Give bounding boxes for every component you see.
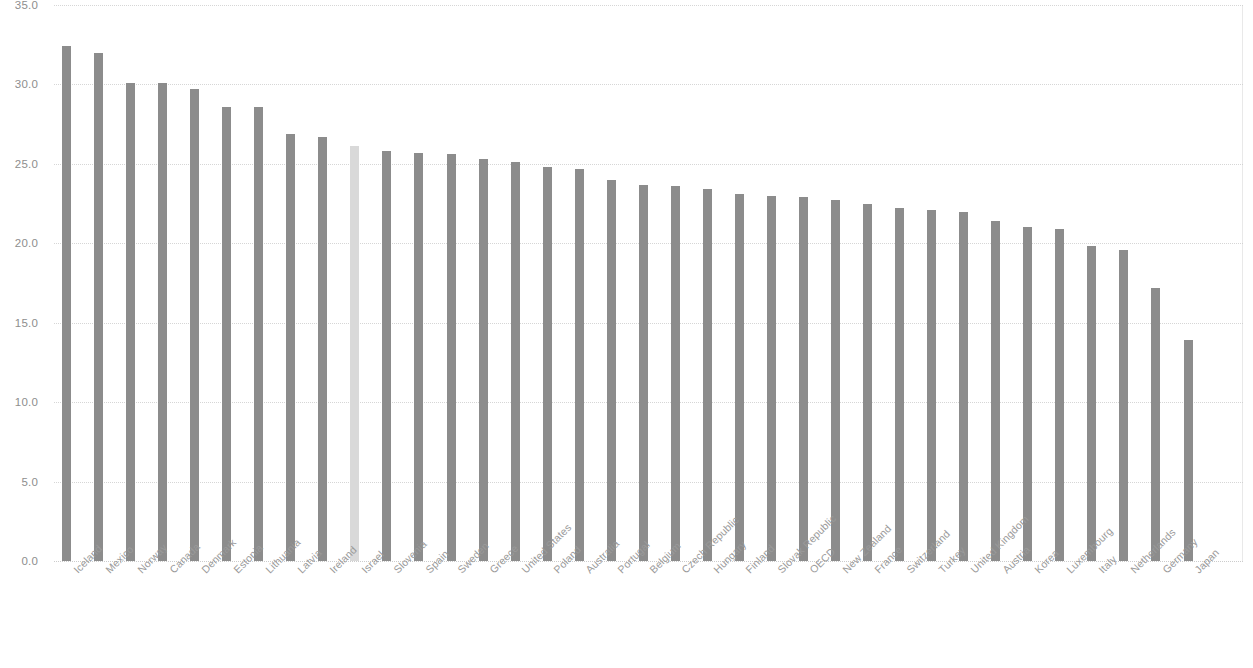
bar[interactable] xyxy=(158,83,167,561)
bar[interactable] xyxy=(799,197,808,561)
bar-chart: 35.030.025.020.015.010.05.00.0 IcelandMe… xyxy=(0,0,1253,668)
bar[interactable] xyxy=(286,134,295,561)
bar[interactable] xyxy=(959,212,968,561)
bar[interactable] xyxy=(767,196,776,561)
y-axis-tick-label: 30.0 xyxy=(0,78,38,90)
bar[interactable] xyxy=(318,137,327,561)
x-axis-category-labels: IcelandMexicoNorwayCanadaDenmarkEstoniaL… xyxy=(54,563,1243,668)
bar[interactable] xyxy=(350,146,359,561)
y-axis-tick-label: 0.0 xyxy=(0,555,38,567)
bar[interactable] xyxy=(831,200,840,561)
bar[interactable] xyxy=(479,159,488,561)
bar[interactable] xyxy=(447,154,456,561)
bar[interactable] xyxy=(895,208,904,561)
bar[interactable] xyxy=(254,107,263,561)
bar[interactable] xyxy=(543,167,552,561)
bar[interactable] xyxy=(863,204,872,561)
plot-area: 35.030.025.020.015.010.05.00.0 xyxy=(54,5,1243,561)
bar[interactable] xyxy=(414,153,423,561)
bar[interactable] xyxy=(991,221,1000,561)
bar[interactable] xyxy=(639,185,648,561)
bar[interactable] xyxy=(927,210,936,561)
y-axis-tick-label: 10.0 xyxy=(0,396,38,408)
bar[interactable] xyxy=(671,186,680,561)
bar[interactable] xyxy=(1184,340,1193,561)
bars-container xyxy=(54,5,1243,561)
bar[interactable] xyxy=(94,53,103,561)
bar[interactable] xyxy=(703,189,712,561)
bar[interactable] xyxy=(607,180,616,561)
bar[interactable] xyxy=(575,169,584,561)
bar[interactable] xyxy=(735,194,744,561)
y-axis-tick-label: 15.0 xyxy=(0,317,38,329)
bar[interactable] xyxy=(1119,250,1128,561)
bar[interactable] xyxy=(126,83,135,561)
bar[interactable] xyxy=(1055,229,1064,561)
gridline-0-0 xyxy=(54,561,1243,562)
y-axis-tick-label: 35.0 xyxy=(0,0,38,11)
bar[interactable] xyxy=(511,162,520,561)
bar[interactable] xyxy=(1023,227,1032,561)
bar[interactable] xyxy=(382,151,391,561)
bar[interactable] xyxy=(1151,288,1160,561)
y-axis-tick-label: 20.0 xyxy=(0,237,38,249)
y-axis-tick-label: 5.0 xyxy=(0,476,38,488)
bar[interactable] xyxy=(1087,246,1096,561)
bar[interactable] xyxy=(190,89,199,561)
bar[interactable] xyxy=(222,107,231,561)
bar[interactable] xyxy=(62,46,71,561)
y-axis-tick-label: 25.0 xyxy=(0,158,38,170)
